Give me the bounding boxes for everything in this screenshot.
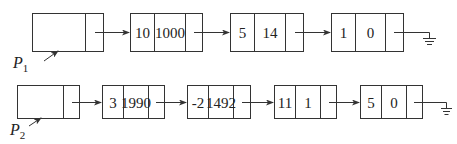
- node-coef: 5: [239, 25, 247, 41]
- linked-list-diagram: P1 10 1000 5 14 1 0: [0, 0, 457, 144]
- p1-label: P1: [12, 54, 28, 74]
- list-node: 11 1: [275, 86, 337, 119]
- node-exp: 0: [367, 25, 375, 41]
- node-exp: 1990: [121, 95, 151, 111]
- node-coef: -2: [192, 95, 205, 111]
- head-node-p2: [18, 86, 80, 119]
- head-node-p1: [33, 14, 104, 52]
- list-p1: P1 10 1000 5 14 1 0: [12, 14, 436, 75]
- list-node: 10 1000: [131, 14, 203, 52]
- node-exp: 1492: [206, 95, 236, 111]
- node-exp: 14: [263, 25, 279, 41]
- list-node: 5 0: [361, 86, 423, 119]
- node-coef: 3: [109, 95, 117, 111]
- p2-pointer-arrow: [29, 118, 41, 126]
- list-node: 1 0: [332, 14, 404, 52]
- null-ground-icon: [394, 33, 436, 45]
- node-exp: 1: [304, 95, 312, 111]
- list-node: -2 1492: [188, 86, 251, 119]
- list-p2: P2 3 1990 -2 1492 11 1: [9, 86, 452, 142]
- node-coef: 1: [340, 25, 348, 41]
- p2-label: P2: [9, 121, 25, 141]
- node-coef: 11: [278, 95, 292, 111]
- node-exp: 0: [390, 95, 398, 111]
- node-exp: 1000: [155, 25, 185, 41]
- list-node: 3 1990: [103, 86, 165, 119]
- null-ground-icon: [414, 103, 452, 115]
- p1-pointer-arrow: [44, 51, 58, 61]
- list-node: 5 14: [231, 14, 304, 52]
- node-coef: 10: [135, 25, 150, 41]
- node-coef: 5: [367, 95, 375, 111]
